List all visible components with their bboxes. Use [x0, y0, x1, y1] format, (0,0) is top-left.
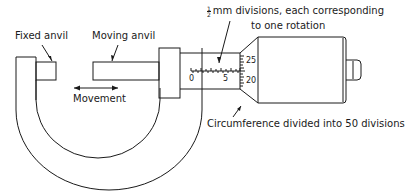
sleeve-scale-5: 5: [223, 75, 228, 83]
thimble-scale-20: 20: [246, 77, 256, 85]
thimble: [258, 37, 346, 103]
frame-block: [159, 48, 180, 98]
fixed-anvil-label: Fixed anvil: [15, 30, 68, 41]
divisions-label-line2: to one rotation: [251, 20, 325, 31]
half-fraction: 12: [207, 6, 211, 17]
movement-label: Movement: [73, 93, 126, 104]
frame-inner: [36, 80, 160, 158]
divisions-label: 12mm divisions, each corresponding: [207, 5, 384, 17]
thimble-bevel: [240, 37, 258, 103]
thimble-scale-25: 25: [246, 57, 256, 65]
moving-anvil: [93, 62, 159, 80]
fixed-anvil: [36, 62, 56, 80]
sleeve-scale-0: 0: [189, 75, 194, 83]
frame-outer: [16, 48, 202, 190]
moving-anvil-label: Moving anvil: [92, 30, 155, 41]
circumference-label: Circumference divided into 50 divisions: [207, 118, 405, 129]
micrometer-diagram: Fixed anvil Moving anvil Movement 12mm d…: [0, 0, 414, 194]
